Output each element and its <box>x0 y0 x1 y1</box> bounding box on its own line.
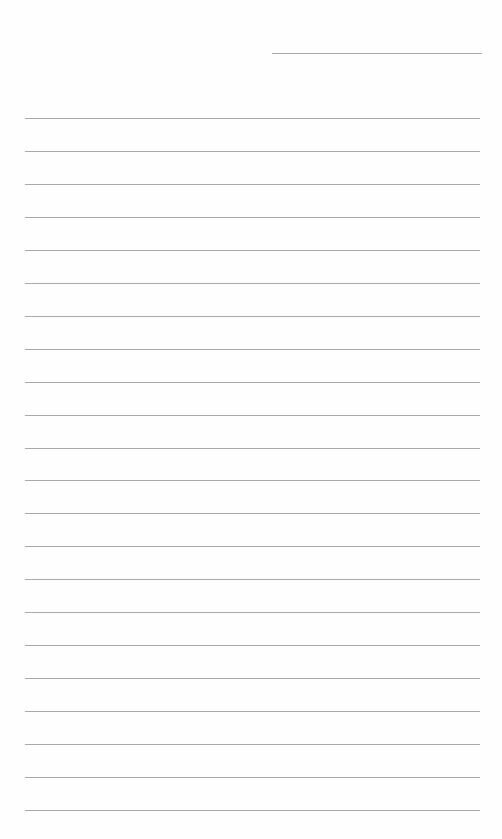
ruled-line <box>25 678 480 679</box>
header-line <box>272 53 482 54</box>
ruled-line <box>25 480 480 481</box>
ruled-line <box>25 777 480 778</box>
ruled-line <box>25 744 480 745</box>
ruled-line <box>25 349 480 350</box>
ruled-line <box>25 184 480 185</box>
ruled-line <box>25 448 480 449</box>
ruled-line <box>25 546 480 547</box>
ruled-line <box>25 316 480 317</box>
ruled-line <box>25 579 480 580</box>
ruled-line <box>25 810 480 811</box>
ruled-line <box>25 382 480 383</box>
ruled-line <box>25 118 480 119</box>
ruled-line <box>25 283 480 284</box>
ruled-line <box>25 151 480 152</box>
ruled-line <box>25 711 480 712</box>
ruled-line <box>25 645 480 646</box>
ruled-line <box>25 217 480 218</box>
ruled-line <box>25 513 480 514</box>
ruled-line <box>25 415 480 416</box>
lined-paper <box>0 0 502 839</box>
ruled-line <box>25 612 480 613</box>
ruled-line <box>25 250 480 251</box>
